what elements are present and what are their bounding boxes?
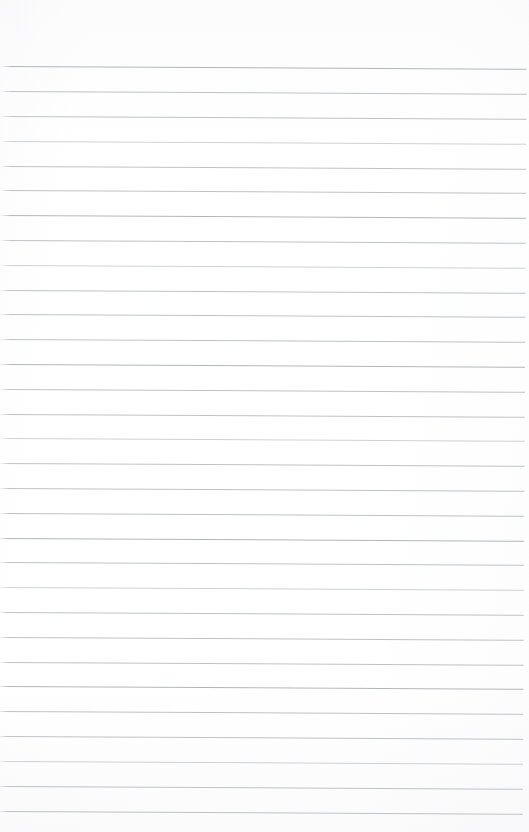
notepad-page (0, 0, 529, 832)
writing-area[interactable] (2, 66, 527, 812)
